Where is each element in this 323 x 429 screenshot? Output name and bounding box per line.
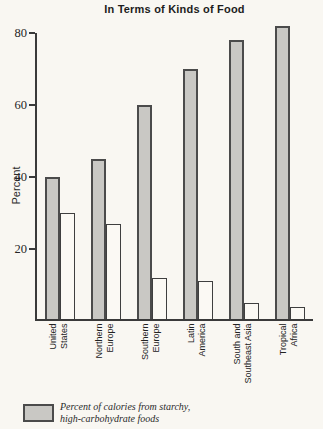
y-tick-mark	[29, 176, 35, 178]
bar-starchy-0	[45, 177, 60, 321]
bar-other-2	[152, 278, 167, 321]
x-label-4: South and Southeast Asia	[232, 324, 253, 396]
y-tick-80: 80	[0, 25, 35, 41]
legend-text-line-1: Percent of calories from starchy,	[60, 401, 190, 413]
y-tick-label: 20	[15, 241, 28, 257]
y-tick-60: 60	[0, 97, 35, 113]
figure-title: In Terms of Kinds of Food	[36, 3, 313, 15]
y-tick-label: 80	[15, 25, 28, 41]
legend-text-line-2: high-carbohydrate foods	[60, 413, 190, 425]
bar-starchy-5	[275, 26, 290, 321]
bar-starchy-4	[229, 40, 244, 321]
x-axis	[35, 319, 313, 321]
y-tick-mark	[29, 32, 35, 34]
y-tick-label: 60	[15, 97, 28, 113]
y-axis-label: Percent	[10, 154, 23, 218]
y-tick-40: 40	[0, 169, 35, 185]
y-tick-mark	[29, 248, 35, 250]
x-label-0: United States	[48, 324, 69, 396]
x-label-5: Tropical Africa	[278, 324, 299, 396]
bar-other-3	[198, 281, 213, 321]
plot-area: In Terms of Kinds of Food Percent Percen…	[0, 0, 323, 429]
bar-starchy-2	[137, 105, 152, 321]
bar-starchy-1	[91, 159, 106, 321]
x-label-1: Northern Europe	[94, 324, 115, 396]
x-label-3: Latin America	[186, 324, 207, 396]
legend-text: Percent of calories from starchy, high-c…	[60, 401, 190, 425]
legend-swatch-starchy	[23, 404, 54, 422]
y-tick-mark	[29, 104, 35, 106]
bar-other-1	[106, 224, 121, 321]
y-tick-20: 20	[0, 241, 35, 257]
y-axis	[35, 33, 37, 321]
x-label-2: Southern Europe	[140, 324, 161, 396]
bar-other-0	[60, 213, 75, 321]
bar-starchy-3	[183, 69, 198, 321]
y-tick-label: 40	[15, 169, 28, 185]
